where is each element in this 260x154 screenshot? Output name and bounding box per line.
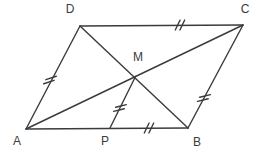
point-label-B: B [193, 135, 201, 149]
side-CD [80, 25, 243, 26]
side-AB [26, 128, 188, 129]
point-label-M: M [133, 50, 143, 64]
point-label-D: D [66, 2, 75, 16]
point-label-A: A [13, 134, 21, 148]
double-tick-side-DA [44, 80, 54, 83]
point-label-C: C [241, 2, 250, 16]
side-BC [188, 25, 243, 128]
point-label-P: P [101, 134, 109, 148]
geometry-diagram-container: ABCDMP [0, 0, 260, 154]
diagonal-DB [80, 26, 188, 128]
double-tick-side-DA [46, 76, 56, 79]
segment-MP [110, 77, 136, 129]
geometry-figure: ABCDMP [0, 0, 260, 154]
